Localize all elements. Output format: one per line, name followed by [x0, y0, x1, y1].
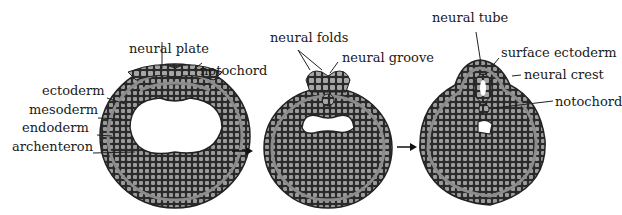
stage2-embryo — [264, 71, 392, 208]
label-neural-crest: neural crest — [524, 68, 604, 81]
label-surface-ectoderm: surface ectoderm — [501, 46, 617, 59]
label-neural-plate: neural plate — [129, 42, 209, 55]
label-notochord-stage3: notochord — [555, 95, 622, 108]
label-neural-groove: neural groove — [342, 51, 434, 64]
arrow-stage2-to-3 — [397, 143, 417, 151]
stage2-leader-lines — [298, 50, 338, 73]
label-endoderm: endoderm — [22, 121, 89, 134]
label-ectoderm: ectoderm — [42, 84, 105, 97]
label-notochord-stage1: notochord — [200, 64, 267, 77]
label-neural-folds: neural folds — [270, 31, 348, 44]
label-mesoderm: mesoderm — [29, 103, 98, 116]
label-archenteron: archenteron — [12, 140, 93, 153]
label-neural-tube: neural tube — [432, 11, 508, 24]
stage1-embryo — [100, 64, 250, 208]
